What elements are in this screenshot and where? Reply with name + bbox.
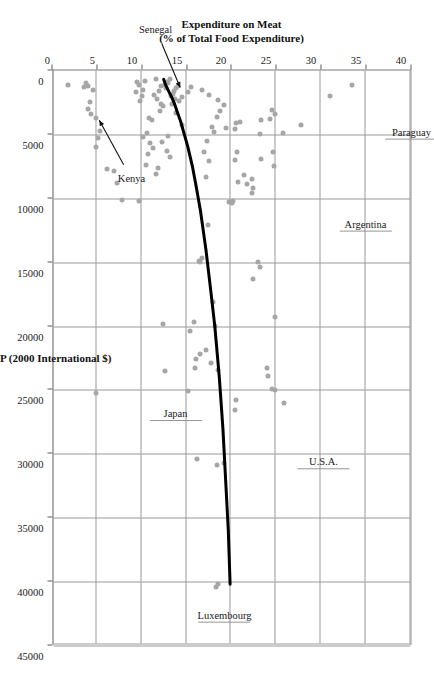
annotation-senegal-arrow [161, 43, 179, 87]
chart-page: 0500010000150002000025000300003500040000… [0, 0, 434, 681]
annotation-kenya-arrowhead [99, 120, 104, 126]
annotation-lines [7, 13, 427, 668]
figure: 0500010000150002000025000300003500040000… [7, 13, 427, 668]
rotated-chart-container: 0500010000150002000025000300003500040000… [7, 13, 427, 668]
annotation-kenya-arrow [99, 120, 123, 164]
